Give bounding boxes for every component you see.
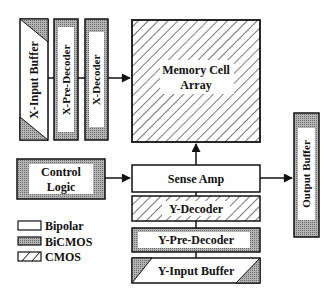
x-pre-decoder-block: X-Pre-Decoder [54,19,78,140]
sense-amp-block: Sense Amp [132,165,260,192]
y-decoder-label: Y-Decoder [169,202,224,216]
y-input-buffer-block: Y-Input Buffer [132,258,260,283]
x-decoder-block: X-Decoder [85,19,108,140]
memory-cell-array-label-1: Memory Cell [162,63,230,77]
memory-block-diagram: X-Input Buffer X-Pre-Decoder X-Decoder M… [0,0,335,298]
legend-item-cmos: CMOS [18,250,81,264]
y-pre-decoder-block: Y-Pre-Decoder [132,228,260,252]
legend-label-bipolar: Bipolar [45,219,84,233]
output-buffer-label: Output Buffer [300,140,312,208]
memory-cell-array-label-2: Array [180,78,211,92]
y-pre-decoder-label: Y-Pre-Decoder [158,233,235,247]
y-input-buffer-label: Y-Input Buffer [158,264,235,278]
legend-item-bipolar: Bipolar [18,219,84,233]
y-decoder-block: Y-Decoder [132,196,260,221]
sense-amp-label: Sense Amp [168,172,225,186]
x-input-buffer-block: X-Input Buffer [20,19,48,140]
legend-label-cmos: CMOS [45,250,81,264]
legend-item-bicmos: BiCMOS [18,235,93,249]
output-buffer-block: Output Buffer [294,113,319,237]
control-logic-label-2: Logic [47,180,76,194]
memory-cell-array-block: Memory Cell Array [132,20,260,142]
x-input-buffer-label: X-Input Buffer [27,40,41,118]
legend-label-bicmos: BiCMOS [45,235,93,249]
x-pre-decoder-label: X-Pre-Decoder [60,45,72,116]
legend: Bipolar BiCMOS CMOS [18,219,93,264]
control-logic-label-1: Control [41,165,81,179]
control-logic-block: Control Logic [17,159,105,199]
x-decoder-label: X-Decoder [90,55,102,106]
